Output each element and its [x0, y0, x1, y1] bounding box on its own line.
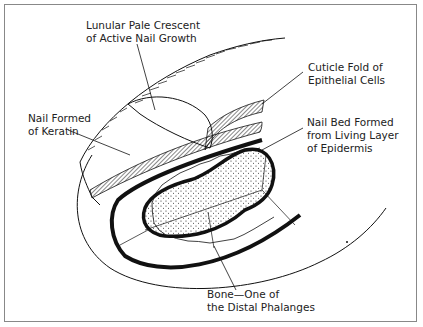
- label-cuticle-line2: Epithelial Cells: [308, 74, 385, 87]
- label-bone: Bone—One of the Distal Phalanges: [207, 288, 315, 314]
- leader-lunula: [137, 44, 155, 110]
- label-nail-bed-line1: Nail Bed Formed: [307, 116, 399, 129]
- fingernail-illustration: [0, 0, 423, 327]
- label-bone-line1: Bone—One of: [207, 288, 315, 301]
- label-nail-line1: Nail Formed: [28, 112, 91, 125]
- label-nail-line2: of Keratin: [28, 125, 91, 138]
- leader-nail-bed: [262, 128, 303, 150]
- leader-cuticle: [262, 72, 303, 104]
- label-cuticle-line1: Cuticle Fold of: [308, 61, 385, 74]
- label-bone-line2: the Distal Phalanges: [207, 301, 315, 314]
- label-lunula-line1: Lunular Pale Crescent: [86, 19, 200, 32]
- label-lunula: Lunular Pale Crescent of Active Nail Gro…: [86, 19, 200, 45]
- label-nail-bed-line2: from Living Layer: [307, 129, 399, 142]
- nail-free-edge: [80, 162, 100, 205]
- stray-dot: [346, 241, 348, 243]
- label-nail-bed-line3: of Epidermis: [307, 142, 399, 155]
- label-cuticle: Cuticle Fold of Epithelial Cells: [308, 61, 385, 87]
- label-lunula-line2: of Active Nail Growth: [86, 32, 200, 45]
- label-nail: Nail Formed of Keratin: [28, 112, 91, 138]
- label-nail-bed: Nail Bed Formed from Living Layer of Epi…: [307, 116, 399, 155]
